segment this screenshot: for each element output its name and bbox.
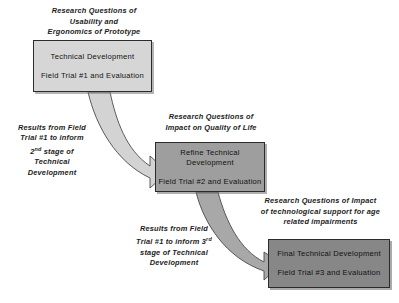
stage-2-heading: Research Questions of Impact on Quality … — [148, 112, 274, 133]
stage-2-box-line-2: Field Trial #2 and Evaluation — [158, 177, 261, 187]
flow-label-2-tail: stage of Technical Development — [140, 248, 208, 268]
diagram-canvas: Research Questions of Usability and Ergo… — [0, 0, 399, 303]
stage-1-box-line-1: Technical Development — [51, 52, 135, 62]
stage-1-box[interactable]: Technical Development Field Trial #1 and… — [33, 40, 152, 92]
stage-3-box-line-2: Field Trial #3 and Evaluation — [277, 268, 380, 278]
stage-1-box-line-2: Field Trial #1 and Evaluation — [41, 71, 144, 81]
flow-label-1-superscript: nd — [35, 146, 42, 152]
flow-label-2: Results from Field Trial #1 to inform 3r… — [122, 213, 226, 269]
stage-3-box-line-1: Final Technical Development — [277, 249, 381, 259]
stage-2-box[interactable]: Refine Technical Development Field Trial… — [155, 142, 265, 192]
stage-2-box-line-1: Refine Technical Development — [180, 148, 240, 168]
flow-label-2-superscript: rd — [206, 236, 212, 242]
stage-1-heading: Research Questions of Usability and Ergo… — [22, 6, 166, 38]
stage-3-heading: Research Questions of Impact of technolo… — [242, 196, 399, 228]
flow-label-2-text: Results from Field Trial #1 to inform 3 — [136, 224, 208, 247]
flow-label-1: Results from Field Trial #1 to inform 2n… — [4, 112, 100, 178]
stage-3-box[interactable]: Final Technical Development Field Trial … — [268, 239, 390, 288]
